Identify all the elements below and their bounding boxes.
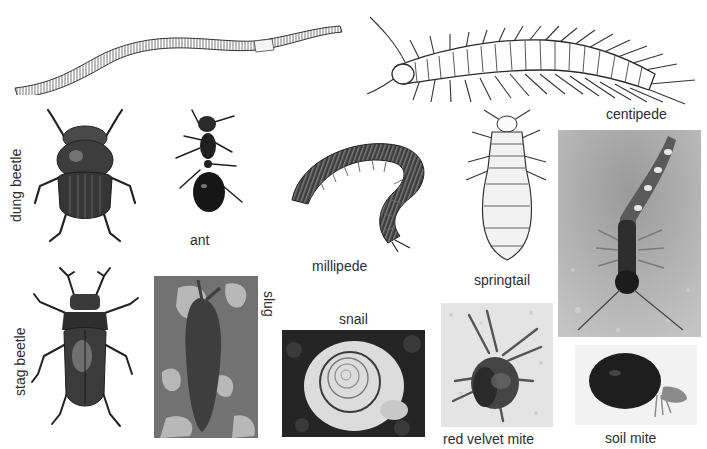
stag-beetle-label: stag beetle: [12, 328, 28, 397]
centipede-label: centipede: [606, 106, 667, 122]
ant-label: ant: [190, 232, 209, 248]
springtail-illustration: [462, 108, 552, 266]
millipede-label: millipede: [312, 258, 367, 274]
dung-beetle-illustration: [30, 108, 140, 248]
centipede-photo: [558, 130, 701, 337]
red-velvet-mite-label: red velvet mite: [443, 431, 534, 447]
ant-photo: [170, 108, 250, 220]
millipede-photo: [280, 128, 435, 253]
springtail-label: springtail: [474, 272, 530, 288]
snail-label: snail: [339, 311, 368, 327]
soil-mite-photo: [575, 345, 697, 425]
stag-beetle-illustration: [30, 264, 145, 434]
earthworm-illustration: [10, 10, 345, 95]
slug-photo: [154, 276, 258, 438]
centipede-illustration: [365, 12, 700, 107]
snail-photo: [282, 330, 425, 437]
slug-label: slug: [261, 291, 277, 317]
soil-mite-label: soil mite: [605, 430, 656, 446]
red-velvet-mite-photo: [441, 303, 553, 427]
dung-beetle-label: dung beetle: [8, 149, 24, 222]
